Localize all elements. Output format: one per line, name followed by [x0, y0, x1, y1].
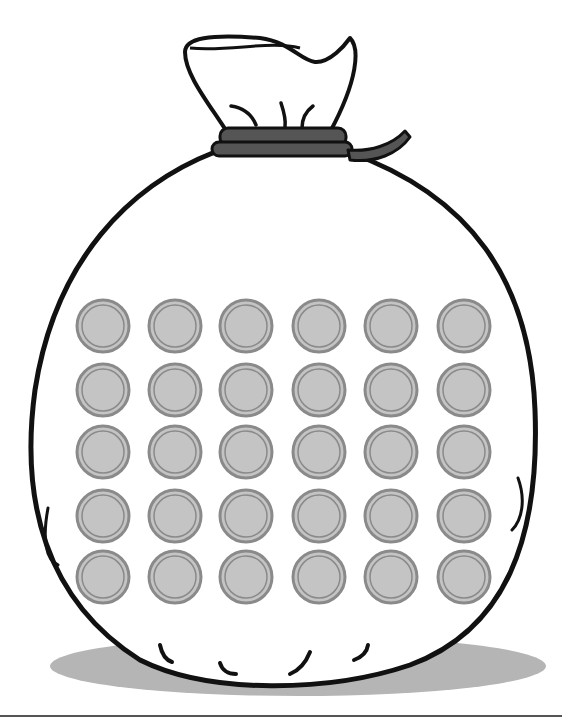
- coin: [77, 300, 129, 352]
- coin: [220, 300, 272, 352]
- coin: [220, 490, 272, 542]
- coin: [365, 490, 417, 542]
- coin: [149, 426, 201, 478]
- coin: [365, 426, 417, 478]
- coin: [438, 300, 490, 352]
- money-bag-illustration: [0, 0, 562, 723]
- coin: [293, 551, 345, 603]
- tie-band-bottom: [212, 142, 352, 156]
- bag-body-outline: [31, 152, 536, 686]
- coin: [365, 364, 417, 416]
- coin: [438, 364, 490, 416]
- coin: [293, 300, 345, 352]
- coin: [149, 490, 201, 542]
- coin: [77, 364, 129, 416]
- coin: [77, 426, 129, 478]
- coin: [220, 426, 272, 478]
- coin: [149, 364, 201, 416]
- coin: [77, 490, 129, 542]
- coin: [220, 551, 272, 603]
- coin: [149, 300, 201, 352]
- coin: [220, 364, 272, 416]
- coin: [365, 300, 417, 352]
- coin: [365, 551, 417, 603]
- coin: [293, 426, 345, 478]
- coin: [149, 551, 201, 603]
- tie-band-tail: [348, 131, 410, 161]
- coin: [293, 490, 345, 542]
- coin: [438, 551, 490, 603]
- coin: [293, 364, 345, 416]
- coin: [438, 490, 490, 542]
- bag-neck: [185, 37, 355, 132]
- coin: [438, 426, 490, 478]
- coin: [77, 551, 129, 603]
